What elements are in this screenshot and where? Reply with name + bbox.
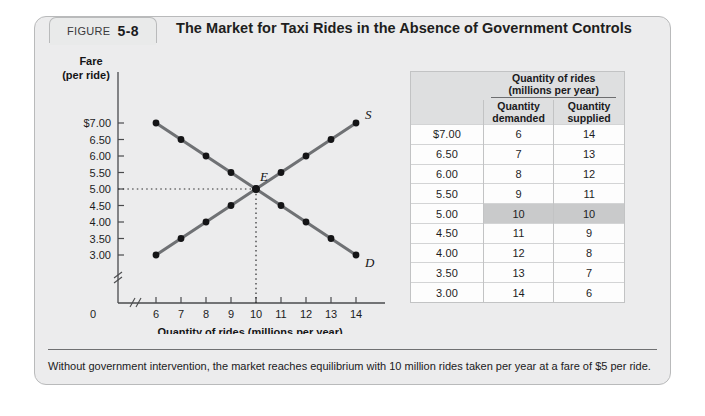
table-row: 3.00146 [411,283,624,302]
cell-quantity-supplied: 10 [554,204,624,224]
x-axis-tick-label: 11 [275,308,286,320]
data-point-supply [328,136,335,143]
caption-divider [48,349,657,350]
table-row: 6.50713 [411,144,624,164]
data-point-supply [203,219,210,226]
demanded-header-line2: demanded [484,112,553,124]
y-axis-tick-label: 3.50 [90,233,111,245]
table-row: 4.00128 [411,243,624,263]
cell-quantity-supplied: 9 [554,223,624,243]
y-axis-title-line2: (per ride) [62,69,110,81]
y-axis-tick-label: $7.00 [83,117,111,129]
figure-content-area: $7.006.506.005.505.004.504.003.503.00678… [35,44,636,334]
cell-quantity-demanded: 13 [483,263,553,283]
tab-seam [50,41,156,45]
cell-quantity-demanded: 8 [483,164,553,184]
figure-title: The Market for Taxi Rides in the Absence… [176,20,632,36]
table-row: 5.001010 [411,204,624,224]
equilibrium-label: E [259,169,268,184]
x-axis-tick-label: 9 [228,308,234,320]
y-axis-tick-label: 4.00 [90,216,111,228]
table-header-demanded: Quantity demanded [483,100,553,125]
x-axis-tick-label: 8 [203,308,209,320]
cell-quantity-supplied: 7 [554,263,624,283]
data-point-demand [228,169,235,176]
data-point-demand [178,136,185,143]
data-point-supply [278,169,285,176]
cell-fare: 4.00 [411,243,483,263]
table-row: $7.00614 [411,125,624,145]
data-point-demand [278,202,285,209]
cell-fare: 6.00 [411,164,483,184]
demanded-header-line1: Quantity [484,100,553,112]
supplied-header-line2: supplied [554,112,624,124]
y-axis-tick-label: 4.50 [90,200,111,212]
origin-label: 0 [90,308,96,320]
cell-quantity-demanded: 6 [483,125,553,145]
cell-quantity-demanded: 12 [483,243,553,263]
data-point-demand [353,252,360,259]
cell-fare: 3.50 [411,263,483,283]
data-point-supply [178,235,185,242]
figure-number-tab: FIGURE 5-8 [49,17,157,43]
table-header-supplied: Quantity supplied [554,100,624,125]
x-axis-tick-label: 12 [300,308,312,320]
data-point-supply [353,120,360,127]
data-point-supply [228,202,235,209]
curve-label-D: D [364,255,375,270]
quantity-table: Quantity of rides (millions per year) Qu… [410,71,625,303]
cell-quantity-supplied: 11 [554,184,624,204]
group-header-line1: Quantity of rides [483,72,624,84]
data-point-demand [153,120,160,127]
data-point-supply [303,153,310,160]
y-axis-tick-label: 6.00 [90,150,111,162]
y-axis-title-line1: Fare [79,55,102,67]
cell-quantity-demanded: 9 [483,184,553,204]
figure-word-label: FIGURE [67,25,110,37]
data-point-demand [328,235,335,242]
x-axis-tick-label: 10 [250,308,262,320]
cell-fare: 4.50 [411,223,483,243]
cell-fare: 5.00 [411,204,483,224]
cell-quantity-supplied: 6 [554,283,624,302]
cell-quantity-supplied: 12 [554,164,624,184]
table-row: 3.50137 [411,263,624,283]
table-group-header-row: Quantity of rides (millions per year) [411,72,624,100]
y-axis-tick-label: 3.00 [90,249,111,261]
data-point-demand [303,219,310,226]
table-group-header: Quantity of rides (millions per year) [483,72,624,100]
group-header-rule [491,97,616,98]
cell-fare: $7.00 [411,125,483,145]
cell-quantity-demanded: 11 [483,223,553,243]
curve-label-S: S [365,107,372,122]
supplied-header-line1: Quantity [554,100,624,112]
y-axis-tick-label: 5.00 [90,183,111,195]
cell-fare: 6.50 [411,144,483,164]
data-point-supply [153,252,160,259]
cell-fare: 5.50 [411,184,483,204]
cell-quantity-supplied: 13 [554,144,624,164]
equilibrium-point [252,185,260,193]
cell-quantity-supplied: 8 [554,243,624,263]
x-axis-title: Quantity of rides (millions per year) [157,326,343,334]
x-axis-tick-label: 7 [178,308,184,320]
table-row: 6.00812 [411,164,624,184]
table-row: 4.50119 [411,223,624,243]
x-axis-tick-label: 6 [153,308,159,320]
group-header-line2: (millions per year) [483,84,624,96]
y-axis-tick-label: 6.50 [90,134,111,146]
figure-caption: Without government intervention, the mar… [48,360,660,372]
x-axis-tick-label: 14 [350,308,362,320]
cell-quantity-demanded: 14 [483,283,553,302]
cell-quantity-demanded: 10 [483,204,553,224]
cell-quantity-supplied: 14 [554,125,624,145]
cell-quantity-demanded: 7 [483,144,553,164]
data-point-demand [203,153,210,160]
table-row: 5.50911 [411,184,624,204]
figure-number-label: 5-8 [117,23,138,39]
y-axis-tick-label: 5.50 [90,167,111,179]
x-axis-tick-label: 13 [325,308,337,320]
cell-fare: 3.00 [411,283,483,302]
